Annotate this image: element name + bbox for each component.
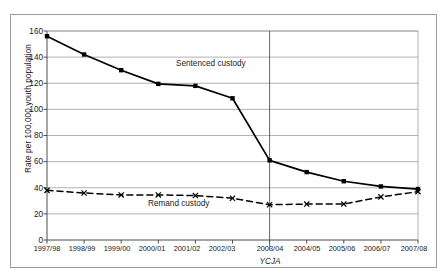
data-point-marker: [82, 52, 86, 56]
data-point-marker: [45, 34, 49, 38]
axis-ticks: [44, 31, 419, 244]
data-point-marker: [119, 68, 123, 72]
chart-figure: Rate per 100,000 youth population 160 14…: [0, 0, 447, 278]
data-point-marker: [230, 96, 234, 100]
gridlines: [47, 31, 418, 214]
series-line-1: [47, 36, 418, 189]
series-layer: [44, 34, 420, 207]
data-point-marker: [379, 184, 383, 188]
data-point-marker: [342, 179, 346, 183]
data-point-marker: [267, 158, 271, 162]
data-point-marker: [193, 84, 197, 88]
data-point-marker: [156, 82, 160, 86]
data-point-marker: [305, 170, 309, 174]
plot-area: [0, 0, 447, 278]
